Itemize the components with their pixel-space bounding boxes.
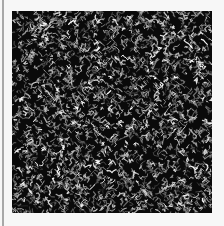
left-border-line: [2, 0, 4, 226]
noise-texture-svg: [12, 11, 212, 213]
noise-texture-image: [12, 11, 212, 213]
image-frame: [0, 0, 224, 226]
